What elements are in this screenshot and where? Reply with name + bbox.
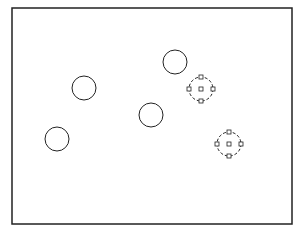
circle[interactable] (72, 76, 96, 100)
drawing-frame (12, 8, 292, 224)
circle-outline[interactable] (72, 76, 96, 100)
circle[interactable] (45, 127, 69, 151)
grip-handle[interactable] (227, 154, 231, 158)
grip-handle[interactable] (239, 142, 243, 146)
selected-circle[interactable] (187, 75, 215, 103)
circle-outline[interactable] (45, 127, 69, 151)
grip-handle[interactable] (211, 87, 215, 91)
grip-handle[interactable] (215, 142, 219, 146)
circle-outline[interactable] (163, 50, 187, 74)
circle-outline[interactable] (139, 103, 163, 127)
shapes-layer[interactable] (45, 50, 243, 158)
grip-handle[interactable] (199, 75, 203, 79)
grip-handle[interactable] (227, 130, 231, 134)
grip-handle[interactable] (199, 99, 203, 103)
grip-handle[interactable] (227, 142, 231, 146)
circle[interactable] (139, 103, 163, 127)
drawing-canvas[interactable] (0, 0, 300, 232)
grip-handle[interactable] (187, 87, 191, 91)
circle[interactable] (163, 50, 187, 74)
selected-circle[interactable] (215, 130, 243, 158)
grip-handle[interactable] (199, 87, 203, 91)
